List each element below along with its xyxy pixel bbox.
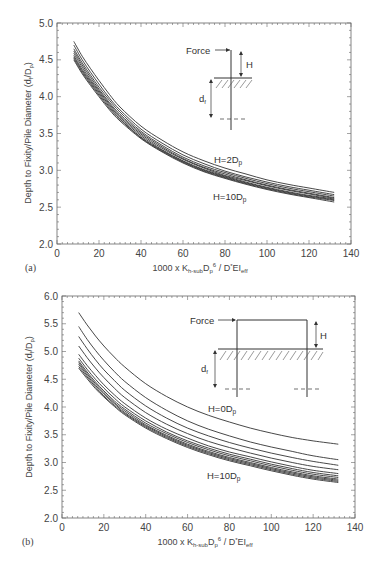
series-curve-h-9dp [74,58,334,200]
x-tick-label: 20 [98,522,110,533]
panel-label-b: (b) [22,536,34,548]
curves-b [79,313,339,483]
pile-group-diagram-b: Force [190,315,327,397]
chart-panel-a: 2.02.53.03.54.04.55.0 020406080100120140… [23,18,360,275]
y-tick-label: 5.5 [44,318,58,329]
curve-label-top-b: H=0Dp [208,403,237,416]
force-label-b: Force [190,315,214,326]
x-tick-labels-b: 020406080100120140 [59,522,364,533]
x-tick-label: 0 [54,248,60,259]
series-curve-h-8dp [79,364,339,480]
y-tick-label: 2.5 [39,202,53,213]
series-curve-h-6dp [79,361,339,478]
series-curve-h-5dp [79,358,339,476]
x-axis-title-a: 1000 x Kh-subDp6 / D*EIeff [152,262,248,274]
series-curve-h-10dp [79,368,339,482]
x-tick-label: 120 [305,522,322,533]
x-tick-label: 100 [263,522,280,533]
x-tick-label: 120 [301,248,318,259]
x-tick-label: 60 [177,248,189,259]
series-curve-h-8dp [74,57,334,200]
df-label-a: df [199,93,206,105]
y-tick-label: 6.0 [44,291,58,302]
y-tick-labels-a: 2.02.53.03.54.04.55.0 [39,18,53,250]
y-tick-label: 2.0 [39,239,53,250]
y-tick-label: 4.5 [44,374,58,385]
y-axis-title-b: Depth to Fixity/Pile Diameter (df/Dp) [24,336,35,478]
x-tick-label: 60 [182,522,194,533]
y-tick-label: 5.0 [39,18,53,29]
pile-diagram-a: Force H df [186,45,253,130]
curve-label-top-a: H=2Dp [214,154,243,167]
y-tick-label: 3.0 [39,165,53,176]
x-tick-label: 140 [343,248,360,259]
x-tick-label: 100 [259,248,276,259]
curve-label-bottom-b: H=10Dp [207,470,241,483]
y-tick-label: 5.0 [44,346,58,357]
chart-panel-b: 2.02.53.03.54.04.55.05.56.0 020406080100… [22,291,364,549]
series-curve-h-4dp [74,49,334,196]
y-tick-label: 2.5 [44,485,58,496]
series-curve-h-0dp [79,313,339,445]
axis-ticks-a [57,23,351,244]
x-tick-label: 40 [140,522,152,533]
y-tick-label: 4.0 [39,91,53,102]
force-label-a: Force [186,45,210,56]
series-curve-h-7dp [74,55,334,199]
y-axis-title-a: Depth to Fixity/Pile Diameter (df/Dp) [23,62,34,204]
y-tick-label: 3.5 [44,429,58,440]
df-label-b: df [201,363,208,375]
x-tick-label: 20 [93,248,105,259]
panel-label-a: (a) [25,262,36,274]
series-curve-h-10dp [74,60,334,202]
x-tick-labels-a: 020406080100120140 [54,248,360,259]
x-tick-label: 80 [219,248,231,259]
y-tick-labels-b: 2.02.53.03.54.04.55.05.56.0 [44,291,58,524]
h-label-b: H [320,330,327,341]
x-tick-label: 140 [347,522,364,533]
series-curve-h-5dp [74,51,334,198]
y-tick-label: 2.0 [44,513,58,524]
series-curve-h-7dp [79,363,339,480]
plot-frame-a [57,23,351,244]
x-tick-label: 80 [224,522,236,533]
series-curve-h-1dp [79,327,339,460]
figure: 2.02.53.03.54.04.55.0 020406080100120140… [0,0,380,568]
h-label-a: H [246,59,253,70]
x-axis-title-b: 1000 x Kh-subDp6 / D*EIeff [157,536,253,548]
y-tick-label: 4.5 [39,54,53,65]
y-tick-label: 4.0 [44,402,58,413]
curve-label-bottom-a: H=10Dp [213,191,247,204]
y-tick-label: 3.5 [39,128,53,139]
x-tick-label: 40 [135,248,147,259]
y-tick-label: 3.0 [44,457,58,468]
series-curve-h-6dp [74,53,334,198]
curves-a [74,41,334,202]
x-tick-label: 0 [59,522,65,533]
